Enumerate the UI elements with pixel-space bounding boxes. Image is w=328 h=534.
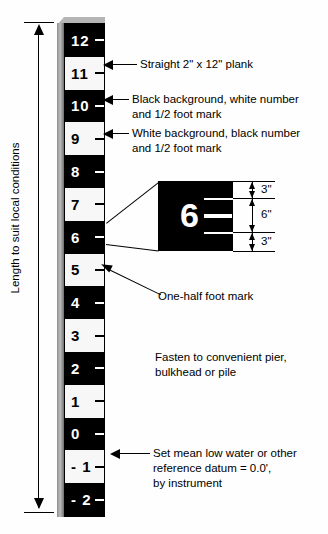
dimension-shaft: [38, 28, 39, 508]
callout-datum: Set mean low water or other reference da…: [153, 446, 297, 492]
staff-band-number: 4: [65, 295, 80, 310]
inset-dim-arrow-2-up: [249, 233, 255, 240]
inset-dim-arrow-1-down: [249, 225, 255, 232]
inset-dim-arrow-2-down: [249, 244, 255, 251]
inset-leader-lower: [106, 244, 159, 251]
white-band-callout-arrowhead: [103, 129, 113, 139]
plank-callout-arrowhead: [103, 60, 113, 70]
callout-black-band: Black background, white number and 1/2 f…: [132, 92, 299, 122]
staff-band--2: - 2: [65, 483, 104, 516]
inset-dim-arrow-1-up: [249, 199, 255, 206]
inset-number: 6: [180, 198, 199, 232]
staff-band-3: 3: [65, 319, 104, 352]
dimension-arrowhead-down: [34, 498, 44, 509]
inset-leader-upper: [106, 182, 159, 224]
inset-ext-line-3: [233, 251, 275, 252]
callout-white-band: White background, black number and 1/2 f…: [132, 126, 300, 156]
inset-half-foot-mark: [204, 214, 232, 218]
half-foot-tick: [95, 335, 104, 337]
staff-band-10: 10: [65, 90, 104, 123]
staff-band-9: 9: [65, 122, 104, 155]
half-foot-tick: [95, 171, 104, 173]
inset-dim-arrow-0-up: [249, 182, 255, 189]
half-foot-tick: [95, 466, 104, 468]
staff-band-number: 1: [65, 394, 80, 409]
callout-fasten: Fasten to convenient pier, bulkhead or p…: [155, 350, 287, 380]
datum-callout-leader: [120, 453, 150, 454]
staff-band-number: 0: [65, 426, 80, 441]
half-foot-tick: [95, 302, 104, 304]
white-band-callout-leader: [108, 133, 129, 134]
half-foot-callout-leader: [109, 269, 162, 295]
staff-band-number: 2: [65, 361, 80, 376]
staff-band-number: 5: [65, 262, 80, 277]
dimension-cap-bottom: [24, 512, 54, 513]
staff-band-number: 11: [65, 66, 89, 81]
staff-band-5: 5: [65, 254, 104, 287]
dimension-cap-top: [24, 22, 54, 23]
staff-band-number: 8: [65, 164, 80, 179]
black-band-callout-arrowhead: [103, 95, 113, 105]
staff-band-number: 7: [65, 197, 80, 212]
staff-band-8: 8: [65, 155, 104, 188]
staff-band-11: 11: [65, 57, 104, 90]
staff-band-4: 4: [65, 286, 104, 319]
staff-band-number: - 2: [65, 492, 92, 507]
staff-band-number: - 1: [65, 459, 92, 474]
plank-face: 1211109876543210- 1- 2: [64, 23, 105, 517]
staff-band-number: 12: [65, 33, 90, 48]
half-foot-tick: [95, 367, 104, 369]
staff-band-12: 12: [65, 24, 104, 57]
datum-callout-arrowhead: [110, 449, 120, 459]
callout-half-foot: One-half foot mark: [158, 289, 253, 304]
half-foot-tick: [95, 236, 104, 238]
half-foot-tick: [95, 105, 104, 107]
staff-band-0: 0: [65, 418, 104, 451]
plank-callout-leader: [113, 64, 137, 65]
staff-band-7: 7: [65, 188, 104, 221]
inset-dim-arrow-0-down: [249, 191, 255, 198]
diagram-canvas: Length to suit local conditions 12111098…: [0, 0, 328, 534]
half-foot-tick: [95, 203, 104, 205]
plank-left-edge: [57, 23, 64, 517]
half-foot-tick: [95, 433, 104, 435]
staff-band-number: 6: [65, 230, 80, 245]
staff-band-1: 1: [65, 385, 104, 418]
tide-staff: 1211109876543210- 1- 2: [57, 17, 105, 517]
black-band-callout-leader: [113, 99, 129, 100]
half-foot-tick: [95, 499, 104, 501]
staff-band-number: 3: [65, 328, 80, 343]
staff-band-number: 9: [65, 131, 80, 146]
inset-dim-label-2: 3": [261, 235, 271, 247]
length-dimension-label: Length to suit local conditions: [7, 118, 23, 318]
staff-band-number: 10: [65, 98, 90, 113]
inset-dim-label-1: 6": [261, 208, 271, 220]
inset-dim-label-0: 3": [261, 183, 271, 195]
callout-plank: Straight 2" x 12" plank: [140, 57, 253, 72]
dimension-arrowhead-up: [34, 24, 44, 35]
staff-band--1: - 1: [65, 450, 104, 483]
detail-inset-band: 6: [158, 181, 233, 251]
staff-band-2: 2: [65, 352, 104, 385]
half-foot-tick: [95, 39, 104, 41]
staff-band-6: 6: [65, 221, 104, 254]
half-foot-tick: [95, 400, 104, 402]
half-foot-tick: [95, 72, 104, 74]
length-dimension-line: [24, 20, 60, 516]
